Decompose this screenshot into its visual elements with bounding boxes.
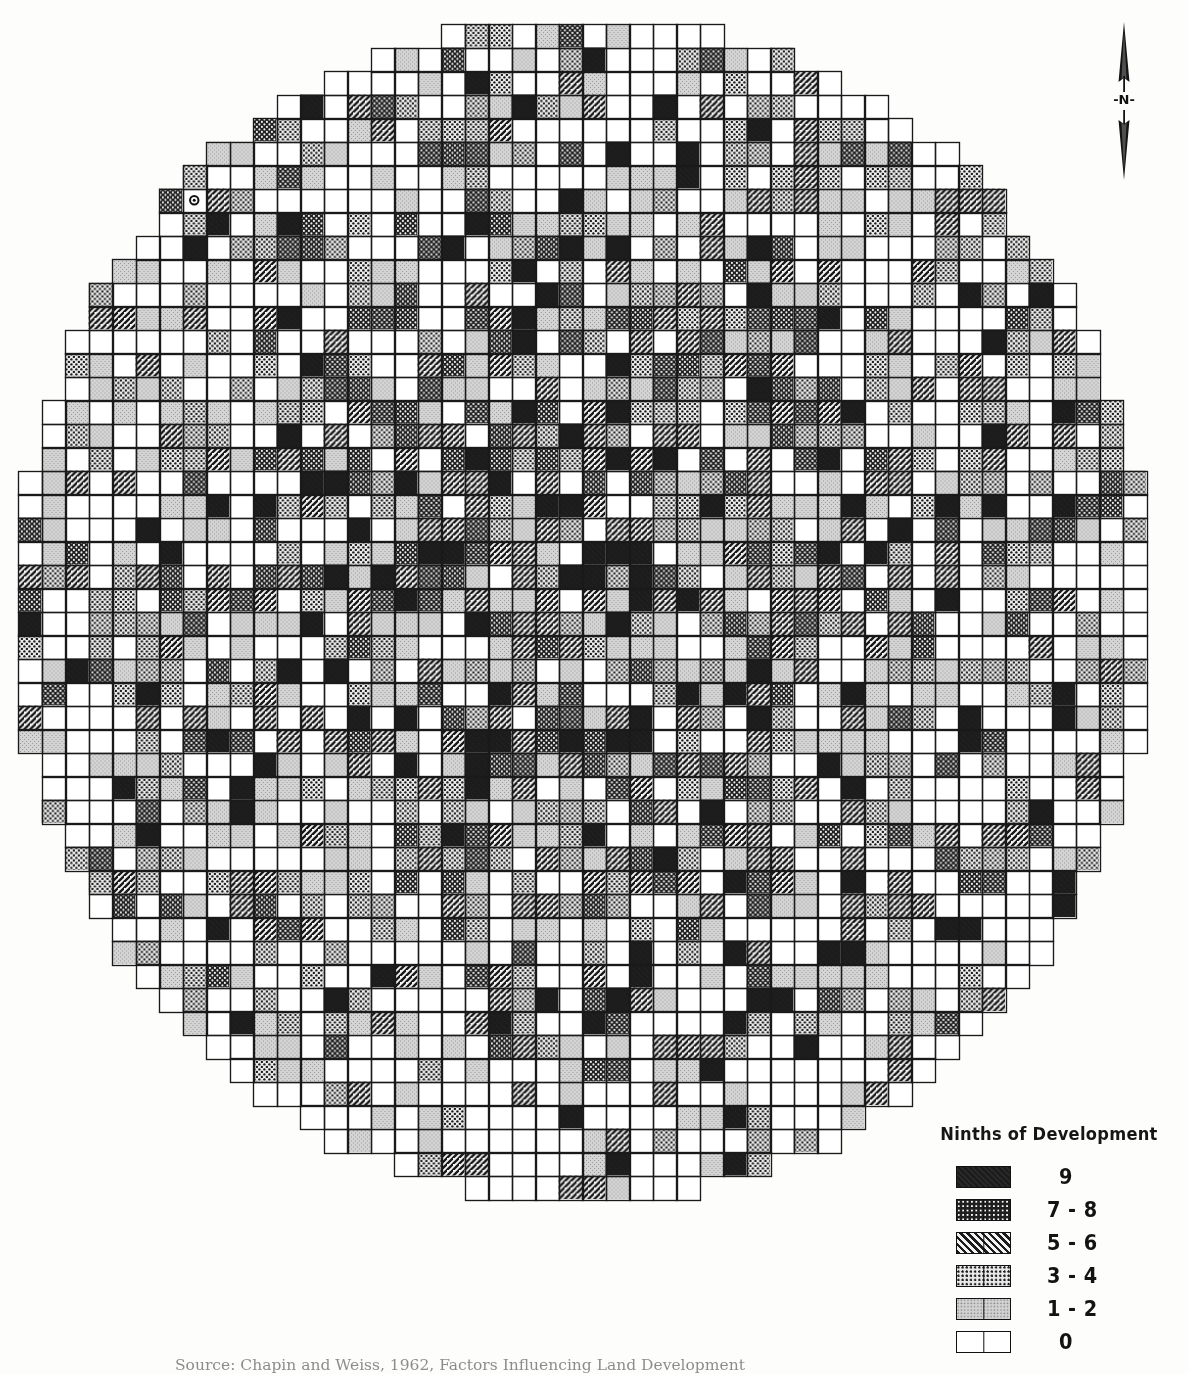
legend-label: 3 - 4 — [1047, 1264, 1098, 1288]
legend-row: 1 - 2 — [956, 1293, 1180, 1324]
swatch-divider — [983, 1299, 984, 1319]
legend-label: 5 - 6 — [1047, 1231, 1098, 1255]
swatch-divider — [983, 1266, 984, 1286]
legend-row: 0 — [956, 1326, 1180, 1357]
legend-row: 7 - 8 — [956, 1194, 1180, 1225]
legend-row: 5 - 6 — [956, 1227, 1180, 1258]
legend-label: 1 - 2 — [1047, 1297, 1098, 1321]
north-arrow: -N- — [1098, 18, 1150, 184]
map-legend: Ninths of Development 97 - 85 - 63 - 41 … — [918, 1124, 1180, 1359]
legend-swatch-medium-dot — [956, 1265, 1011, 1287]
source-caption: Source: Chapin and Weiss, 1962, Factors … — [175, 1356, 935, 1374]
legend-title: Ninths of Development — [927, 1124, 1171, 1144]
legend-swatch-white-empty — [956, 1331, 1011, 1353]
legend-label: 7 - 8 — [1047, 1198, 1098, 1222]
legend-label: 9 — [1059, 1165, 1073, 1189]
swatch-divider — [983, 1332, 984, 1352]
legend-rows: 97 - 85 - 63 - 41 - 20 — [918, 1161, 1180, 1357]
legend-swatch-solid-black — [956, 1166, 1011, 1188]
legend-swatch-light-stipple — [956, 1298, 1011, 1320]
legend-row: 9 — [956, 1161, 1180, 1192]
legend-row: 3 - 4 — [956, 1260, 1180, 1291]
legend-swatch-dense-dot-reverse — [956, 1199, 1011, 1221]
swatch-divider — [983, 1200, 984, 1220]
swatch-divider — [983, 1233, 984, 1253]
legend-swatch-diagonal-hatch — [956, 1232, 1011, 1254]
north-arrow-label: -N- — [1098, 92, 1150, 107]
legend-label: 0 — [1059, 1330, 1073, 1354]
